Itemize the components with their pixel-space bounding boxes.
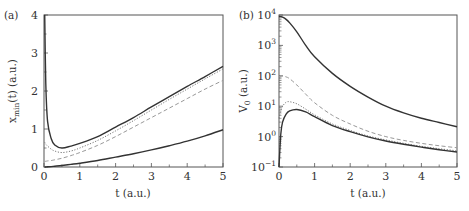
x-tick-label: 4 [418,170,425,183]
series-line-solid-upper [45,15,223,148]
axis-ticks-a: 01234501234 [31,9,227,183]
y-axis-label-a-sub: min [12,103,21,118]
y-axis-label-a-rest: (t) (a.u.) [6,59,18,103]
y-tick-label: 3 [31,47,38,60]
panel-label-a: (a) [4,9,18,21]
x-tick-label: 0 [276,170,283,183]
x-tick-label: 1 [311,170,318,183]
x-tick-label: 5 [454,170,461,183]
y-tick-label: 1 [31,123,38,136]
x-tick-label: 1 [76,170,83,183]
y-tick-label: 101 [257,98,276,113]
series-line-dotted [279,102,457,151]
x-tick-label: 0 [41,170,48,183]
y-tick-label: 103 [257,37,276,52]
y-tick-label: 2 [31,85,38,98]
x-tick-label: 3 [148,170,155,183]
x-tick-label: 2 [112,170,119,183]
axis-ticks-b: 01234510−1100101102103104 [251,7,461,183]
y-tick-label: 4 [31,9,38,22]
panel-a: (a) 01234501234 t (a.u.) xmin(t) (a.u.) [4,9,227,199]
x-tick-label: 3 [382,170,389,183]
plot-frame-a [44,15,223,167]
x-axis-label-b: t (a.u.) [350,187,385,199]
series-line-solid-lower [45,130,223,167]
chart-figure: (a) 01234501234 t (a.u.) xmin(t) (a.u.) … [0,0,469,211]
series-line-solid-upper [279,16,457,126]
panel-label-b: (b) [239,9,254,21]
y-tick-label: 104 [257,7,276,22]
y-axis-label-a: xmin(t) (a.u.) [6,59,21,123]
y-axis-label-b-rest: (a.u.) [237,69,249,100]
x-axis-label-a: t (a.u.) [115,187,150,199]
y-tick-label: 10−1 [251,159,276,174]
y-tick-label: 102 [257,68,276,83]
plot-lines-a [45,15,223,167]
panel-b: (b) 01234510−1100101102103104 t (a.u.) V… [237,7,461,199]
x-tick-label: 5 [220,170,227,183]
x-tick-label: 4 [184,170,191,183]
x-tick-label: 2 [347,170,354,183]
series-line-dashed [45,80,223,161]
plot-lines-b [279,16,457,167]
y-tick-label: 100 [257,129,276,144]
y-axis-label-b: V0 (a.u.) [237,69,252,114]
series-line-solid-lower [279,109,457,167]
y-tick-label: 0 [31,161,38,174]
